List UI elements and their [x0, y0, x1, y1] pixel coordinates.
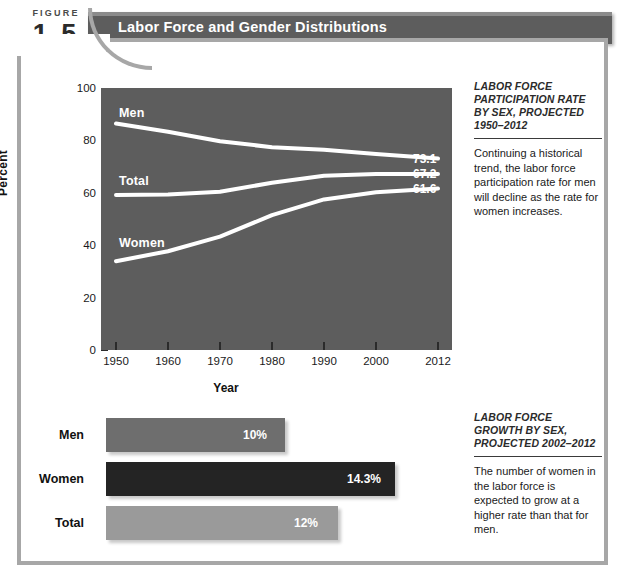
x-tick-1990: 1990 [302, 355, 346, 367]
line-chart-svg [101, 88, 452, 350]
bar-value-men: 10% [243, 418, 267, 452]
line-chart-x-axis-title: Year [0, 381, 452, 395]
line-chart-y-ticks: 100 80 60 40 20 0 [62, 0, 96, 400]
bar-value-women: 14.3% [347, 462, 381, 496]
bar-label-total: Total [0, 506, 84, 540]
side-note-growth: LABOR FORCE GROWTH BY SEX, PROJECTED 200… [474, 411, 602, 537]
y-tick-80: 80 [68, 134, 96, 146]
side-note-participation-divider [474, 138, 602, 139]
side-note-participation-body: Continuing a historical trend, the labor… [474, 146, 602, 219]
bar-row-women: Women 14.3% [0, 462, 460, 496]
x-tick-marks [116, 342, 438, 350]
side-note-growth-heading: LABOR FORCE GROWTH BY SEX, PROJECTED 200… [474, 411, 602, 450]
line-chart-y-axis-title: Percent [0, 150, 10, 196]
bar-rect-men: 10% [106, 418, 285, 452]
series-end-value-men: 73.1 [413, 152, 436, 166]
bar-label-men: Men [0, 418, 84, 452]
y-tick-100: 100 [68, 82, 96, 94]
series-label-total: Total [119, 174, 149, 188]
series-label-women: Women [119, 236, 165, 250]
x-tick-2012: 2012 [416, 355, 460, 367]
x-tick-1950: 1950 [94, 355, 138, 367]
x-tick-1960: 1960 [146, 355, 190, 367]
series-label-men: Men [119, 106, 145, 120]
x-tick-1980: 1980 [250, 355, 294, 367]
y-tick-60: 60 [68, 187, 96, 199]
line-chart-x-ticks: 1950 1960 1970 1980 1990 2000 2012 [0, 355, 470, 375]
series-end-value-total: 67.2 [413, 167, 436, 181]
series-end-value-women: 61.6 [413, 182, 436, 196]
series-line-women [116, 189, 438, 262]
bar-rect-women: 14.3% [106, 462, 395, 496]
bar-chart: Men 10% Women 14.3% Total 12% [0, 405, 470, 555]
x-tick-2000: 2000 [354, 355, 398, 367]
y-tick-40: 40 [68, 239, 96, 251]
side-note-growth-divider [474, 456, 602, 457]
bar-row-total: Total 12% [0, 506, 460, 540]
series-line-men [116, 124, 438, 159]
bar-row-men: Men 10% [0, 418, 460, 452]
side-note-participation-heading: LABOR FORCE PARTICIPATION RATE BY SEX, P… [474, 80, 602, 132]
side-note-growth-body: The number of women in the labor force i… [474, 464, 602, 537]
side-note-participation: LABOR FORCE PARTICIPATION RATE BY SEX, P… [474, 80, 602, 219]
line-chart: Percent 100 80 60 40 20 0 [0, 0, 470, 400]
bar-label-women: Women [0, 462, 84, 496]
bar-value-total: 12% [294, 506, 318, 540]
x-tick-1970: 1970 [198, 355, 242, 367]
line-chart-plot-area: Men Total Women 73.1 67.2 61.6 [101, 88, 452, 350]
y-tick-20: 20 [68, 292, 96, 304]
bar-rect-total: 12% [106, 506, 338, 540]
